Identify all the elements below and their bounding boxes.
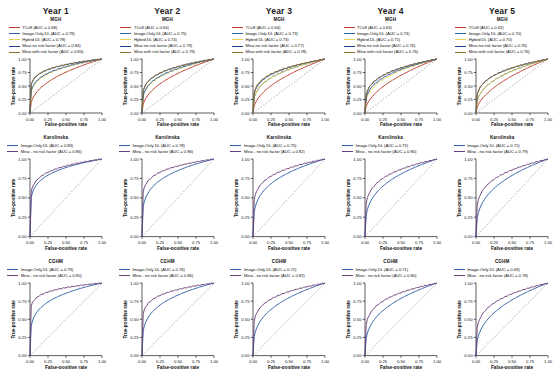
legend-label: Image-Only DL (AUC = 0.73): [356, 143, 408, 149]
x-tick-label: 1.00: [321, 240, 330, 245]
plot-area: 0.000.000.250.250.500.500.750.751.001.00…: [223, 55, 335, 127]
legend-swatch-icon: [454, 145, 465, 146]
legend-swatch-icon: [7, 151, 18, 152]
plot-area: 0.000.000.250.250.500.500.750.751.001.00…: [223, 155, 335, 251]
legend-label: Mirai no risk factor (AUC = 0.77): [245, 43, 303, 49]
x-tick-label: 0.00: [361, 117, 370, 122]
roc-plot-svg: 0.000.000.250.250.500.500.750.751.001.00…: [344, 279, 443, 370]
x-tick-label: 1.00: [98, 117, 107, 122]
x-tick-label: 0.00: [138, 240, 147, 245]
plot-area: 0.000.000.250.250.500.500.750.751.001.00…: [223, 279, 335, 370]
y-tick-label: 0.50: [18, 195, 27, 200]
x-tick-label: 1.00: [210, 240, 219, 245]
x-tick-label: 0.75: [303, 240, 312, 245]
panel-cohort-title: Karolinska: [0, 135, 112, 141]
panel-mgh-year-2: Year 2MGHTCv8 (AUC = 0.66)Image-Only DL …: [112, 0, 224, 130]
panel-cohort-title: CGHM: [0, 259, 112, 265]
reference-diagonal: [365, 283, 437, 356]
roc-plot-svg: 0.000.000.250.250.500.500.750.751.001.00…: [455, 55, 554, 127]
legend-swatch-icon: [344, 33, 355, 34]
y-axis-label: True-positive rate: [11, 67, 16, 106]
panel-legend: Image-Only DL (AUC = 0.71)Mirai - no ris…: [340, 267, 441, 279]
reference-diagonal: [142, 283, 214, 356]
roc-plot-svg: 0.000.000.250.250.500.500.750.751.001.00…: [232, 55, 331, 127]
y-tick-label: 0.00: [353, 353, 362, 358]
x-tick-label: 0.00: [249, 359, 258, 364]
x-tick-label: 0.75: [415, 240, 424, 245]
panel-legend: Image-Only DL (AUC = 0.79)Mirai - no ris…: [5, 267, 106, 279]
y-tick-label: 1.00: [353, 280, 362, 285]
legend-label: Image-Only DL (AUC = 0.71): [356, 267, 408, 273]
legend-label: Mirai no risk factor (AUC = 0.79): [134, 43, 192, 49]
y-axis-label: True-positive rate: [346, 178, 351, 217]
y-tick-label: 1.00: [18, 156, 27, 161]
legend-swatch-icon: [230, 151, 241, 152]
panel-column-title: Year 3: [223, 6, 335, 16]
y-axis-label: True-positive rate: [123, 300, 128, 339]
x-axis-label: False-positive rate: [157, 364, 199, 369]
y-tick-label: 0.75: [465, 176, 474, 181]
legend-swatch-icon: [120, 39, 131, 40]
x-tick-label: 0.75: [303, 117, 312, 122]
x-tick-label: 1.00: [98, 240, 107, 245]
x-tick-label: 0.25: [267, 240, 276, 245]
x-tick-label: 0.75: [526, 117, 535, 122]
plot-area: 0.000.000.250.250.500.500.750.751.001.00…: [335, 155, 447, 251]
y-tick-label: 0.00: [353, 234, 362, 239]
x-tick-label: 0.25: [490, 359, 499, 364]
panel-cghm-year-2: CGHMImage-Only DL (AUC = 0.76)Mirai - no…: [112, 254, 224, 373]
roc-plot-svg: 0.000.000.250.250.500.500.750.751.001.00…: [9, 155, 108, 251]
legend-swatch-icon: [120, 46, 131, 47]
x-tick-label: 1.00: [544, 240, 553, 245]
x-tick-label: 0.25: [267, 359, 276, 364]
legend-label: Mirai - no risk factor (AUC = 0.80): [356, 273, 417, 279]
legend-swatch-icon: [119, 151, 130, 152]
x-tick-label: 0.50: [508, 240, 517, 245]
x-tick-label: 0.75: [192, 240, 201, 245]
y-tick-label: 0.75: [242, 176, 251, 181]
x-tick-label: 1.00: [98, 359, 107, 364]
legend-swatch-icon: [232, 27, 243, 28]
plot-area: 0.000.000.250.250.500.500.750.751.001.00…: [446, 279, 558, 370]
legend-label: Hybrid DL (AUC = 0.71): [357, 37, 400, 43]
legend-swatch-icon: [454, 269, 465, 270]
legend-swatch-icon: [9, 39, 20, 40]
legend-label: Mirai - no risk factor (AUC = 0.82): [244, 273, 305, 279]
y-tick-label: 0.00: [130, 234, 139, 239]
legend-label: Mirai with risk factor (AUC = 0.84): [22, 49, 83, 55]
y-axis-label: True-positive rate: [234, 300, 239, 339]
x-axis-label: False-positive rate: [268, 245, 310, 250]
x-tick-label: 0.25: [379, 117, 388, 122]
legend-label: Mirai no risk factor (AUC = 0.76): [469, 43, 527, 49]
x-tick-label: 0.00: [26, 359, 35, 364]
reference-diagonal: [30, 283, 102, 356]
plot-area: 0.000.000.250.250.500.500.750.751.001.00…: [0, 155, 112, 251]
y-tick-label: 0.75: [130, 176, 139, 181]
legend-label: Image-Only DL (AUC = 0.78): [132, 143, 184, 149]
x-tick-label: 0.50: [174, 240, 183, 245]
x-tick-label: 0.25: [44, 359, 53, 364]
x-tick-label: 0.50: [397, 117, 406, 122]
y-axis-label: True-positive rate: [457, 67, 462, 106]
plot-area: 0.000.000.250.250.500.500.750.751.001.00…: [335, 55, 447, 127]
y-tick-label: 1.00: [242, 280, 251, 285]
y-tick-label: 0.00: [242, 353, 251, 358]
legend-swatch-icon: [120, 52, 131, 53]
legend-label: Mirai with risk factor (AUC = 0.78): [245, 49, 306, 55]
y-axis-label: True-positive rate: [234, 67, 239, 106]
plot-area: 0.000.000.250.250.500.500.750.751.001.00…: [0, 279, 112, 370]
panel-cohort-title: CGHM: [112, 259, 224, 265]
x-tick-label: 1.00: [321, 117, 330, 122]
legend-label: Image-Only DL (AUC = 0.70): [469, 31, 521, 37]
x-axis-label: False-positive rate: [380, 122, 422, 127]
legend-label: Mirai - no risk factor (AUC = 0.86): [132, 273, 193, 279]
legend-swatch-icon: [455, 39, 466, 40]
y-tick-label: 0.00: [18, 353, 27, 358]
x-tick-label: 0.50: [285, 240, 294, 245]
legend-label: Mirai - no risk factor (AUC = 0.78): [467, 273, 528, 279]
y-tick-label: 1.00: [130, 156, 139, 161]
x-axis-label: False-positive rate: [157, 122, 199, 127]
y-tick-label: 0.00: [353, 111, 362, 116]
x-axis-label: False-positive rate: [45, 364, 87, 369]
x-tick-label: 1.00: [433, 117, 442, 122]
